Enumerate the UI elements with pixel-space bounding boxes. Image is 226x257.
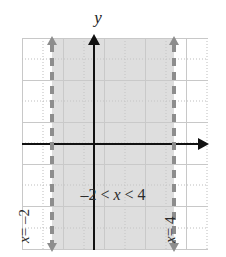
boundary-line-left: [50, 44, 54, 244]
boundary-label-right-variable: x: [162, 236, 178, 243]
boundary-label-left: x= –2: [17, 209, 32, 243]
boundary-label-right-value: = 4: [162, 217, 178, 237]
inequality-graph-figure: y: [0, 0, 226, 257]
inequality-variable: x: [113, 186, 120, 203]
inequality-right-part: < 4: [125, 186, 146, 203]
x-axis-arrow-icon: [198, 138, 209, 150]
y-axis: [93, 44, 95, 250]
inequality-left-part: –2 <: [80, 186, 109, 203]
boundary-right-arrow-down-icon: [169, 243, 179, 252]
boundary-label-left-value: = –2: [16, 209, 32, 236]
boundary-left-arrow-up-icon: [47, 36, 57, 45]
boundary-label-right: x= 4: [163, 217, 178, 243]
y-axis-arrow-icon: [88, 34, 100, 45]
boundary-label-left-variable: x: [16, 236, 32, 243]
boundary-left-arrow-down-icon: [47, 243, 57, 252]
inequality-annotation: –2 < x < 4: [54, 186, 172, 204]
boundary-line-right: [172, 44, 176, 244]
boundary-right-arrow-up-icon: [169, 36, 179, 45]
y-axis-label: y: [88, 8, 108, 28]
